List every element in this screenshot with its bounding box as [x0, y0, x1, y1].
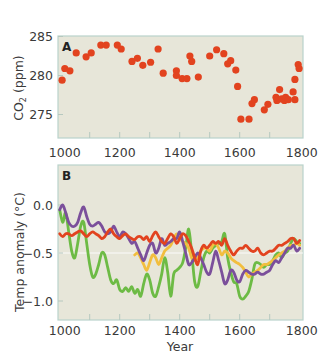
co2-data-point — [234, 83, 241, 90]
co2-data-point — [251, 96, 258, 103]
panel-a-letter: A — [62, 40, 72, 54]
co2-data-point — [291, 96, 298, 103]
co2-data-point — [160, 70, 167, 77]
co2-data-point — [134, 55, 141, 62]
co2-data-point — [232, 66, 239, 73]
co2-data-point — [66, 67, 73, 74]
panel-a-y-tick-labels: 275280285 — [29, 29, 53, 122]
y-tick-label: 280 — [29, 68, 53, 83]
co2-data-point — [276, 86, 283, 93]
panel-b-y-axis-label: Temp anomaly (°C) — [12, 192, 27, 313]
co2-data-point — [103, 41, 110, 48]
co2-data-point — [245, 116, 252, 123]
y-tick-label: 275 — [29, 107, 53, 122]
panel-a-plot-area — [58, 36, 303, 138]
co2-data-point — [195, 73, 202, 80]
co2-data-point — [213, 46, 220, 53]
co2-data-point — [290, 88, 297, 95]
co2-data-point — [237, 116, 244, 123]
co2-data-point — [139, 62, 146, 69]
co2-data-point — [227, 57, 234, 64]
x-tick-label: 1400 — [164, 323, 196, 338]
x-tick-label: 1800 — [286, 323, 318, 338]
x-tick-label: 1200 — [104, 323, 136, 338]
x-tick-label: 1600 — [224, 323, 256, 338]
y-tick-label: 285 — [29, 29, 53, 44]
x-tick-label: 1800 — [286, 145, 318, 160]
figure: A 275280285 10001200140016001800 CO2 (pp… — [0, 0, 329, 360]
panel-b-plot-area — [58, 165, 303, 320]
co2-data-point — [88, 49, 95, 56]
co2-data-point — [118, 45, 125, 52]
x-tick-label: 1000 — [49, 145, 81, 160]
y-tick-label: 0.0 — [33, 198, 53, 213]
panel-b-x-axis-label: Year — [166, 339, 194, 354]
x-tick-label: 1200 — [104, 145, 136, 160]
co2-data-point — [220, 50, 227, 57]
co2-data-point — [291, 76, 298, 83]
panel-a-y-axis-label: CO2 (ppm) — [11, 55, 28, 120]
y-tick-label: −0.5 — [23, 246, 53, 261]
co2-data-point — [296, 65, 303, 72]
y-tick-label: −1.0 — [23, 294, 53, 309]
panel-b-letter: B — [62, 169, 71, 183]
co2-data-point — [147, 59, 154, 66]
co2-data-point — [188, 58, 195, 65]
panel-a-x-tick-labels: 10001200140016001800 — [49, 145, 318, 160]
panel-b: B 0.0−0.5−1.0 10001200140016001800 Temp … — [12, 165, 318, 354]
co2-data-point — [59, 77, 66, 84]
x-tick-label: 1400 — [164, 145, 196, 160]
co2-data-point — [155, 45, 162, 52]
co2-data-point — [73, 49, 80, 56]
x-tick-label: 1000 — [49, 323, 81, 338]
panel-b-y-tick-labels: 0.0−0.5−1.0 — [23, 198, 53, 309]
panel-b-x-tick-labels: 10001200140016001800 — [49, 323, 318, 338]
panel-a: A 275280285 10001200140016001800 CO2 (pp… — [11, 29, 318, 160]
co2-data-point — [285, 96, 292, 103]
co2-data-point — [206, 52, 213, 59]
co2-data-point — [183, 75, 190, 82]
co2-data-point — [264, 101, 271, 108]
x-tick-label: 1600 — [224, 145, 256, 160]
